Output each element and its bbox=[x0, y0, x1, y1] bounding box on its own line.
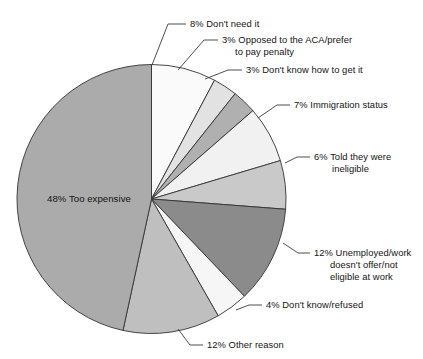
leader-line-immigration-status bbox=[258, 105, 290, 118]
label-opposed-to-aca-line2: to pay penalty bbox=[235, 46, 294, 57]
leader-line-unemployed-work bbox=[283, 243, 310, 253]
pie-chart-svg: 8% Don't need it 3% Opposed to the ACA/p… bbox=[0, 0, 423, 359]
label-other-reason: 12% Other reason bbox=[207, 339, 284, 350]
label-dont-need-it: 8% Don't need it bbox=[190, 18, 260, 29]
leader-line-dont-need-it bbox=[152, 24, 186, 65]
label-too-expensive: 48% Too expensive bbox=[47, 193, 131, 204]
label-immigration-status: 7% Immigration status bbox=[294, 99, 388, 110]
pie-chart: 8% Don't need it 3% Opposed to the ACA/p… bbox=[0, 0, 423, 359]
label-opposed-to-aca-line1: 3% Opposed to the ACA/prefer bbox=[222, 34, 352, 45]
label-unemployed-work-line1: 12% Unemployed/work bbox=[314, 247, 412, 258]
label-told-they-were-ineligible-line1: 6% Told they were bbox=[314, 151, 391, 162]
label-dont-know-how-to-get-it: 3% Don't know how to get it bbox=[246, 64, 363, 75]
leader-line-dont-know-refused bbox=[236, 305, 262, 310]
leader-line-told-they-were-ineligible bbox=[285, 157, 310, 163]
label-dont-know-refused: 4% Don't know/refused bbox=[266, 299, 363, 310]
label-unemployed-work-line2: doesn't offer/not bbox=[330, 259, 398, 270]
leader-line-dont-know-how-to-get-it bbox=[205, 70, 242, 79]
leader-line-other-reason bbox=[178, 329, 203, 345]
label-unemployed-work-line3: eligible at work bbox=[330, 271, 393, 282]
leader-line-opposed-to-aca bbox=[178, 40, 218, 70]
label-told-they-were-ineligible-line2: ineligible bbox=[332, 163, 369, 174]
